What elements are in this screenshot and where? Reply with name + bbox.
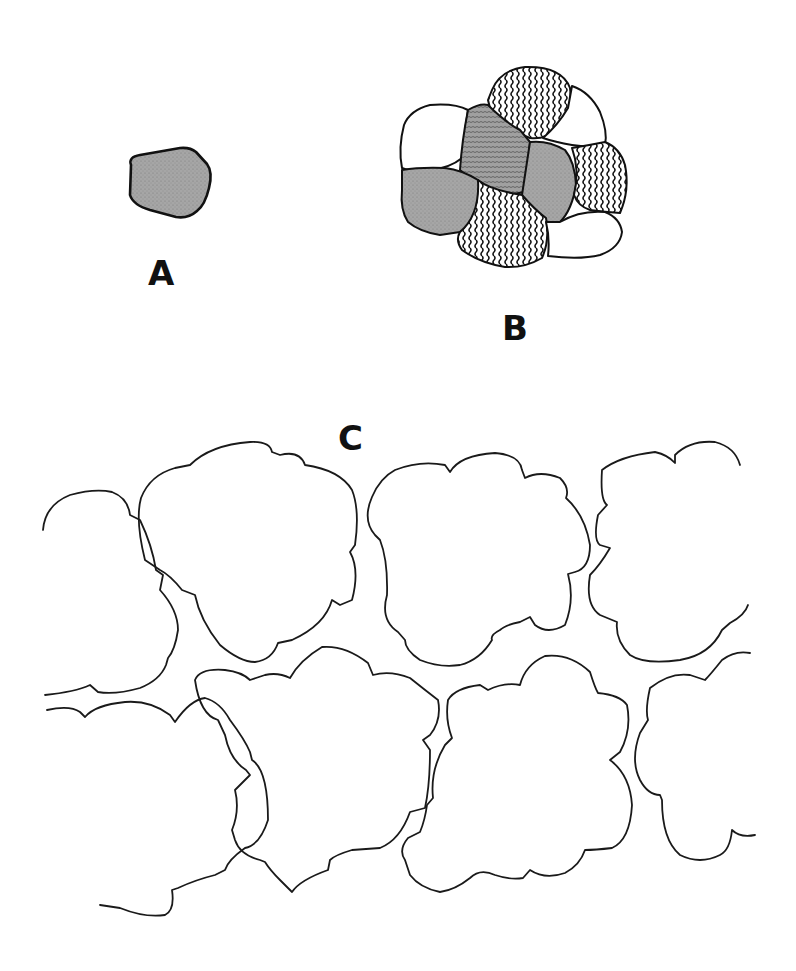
cell-c-bottom-4 xyxy=(635,652,755,860)
panel-c: C xyxy=(43,418,755,916)
cell-c-bottom-1 xyxy=(47,698,268,916)
cell-a-single xyxy=(130,148,211,218)
cell-b-white-left xyxy=(400,105,468,171)
panel-a: A xyxy=(130,148,211,293)
figure-canvas: A B C xyxy=(0,0,796,971)
cell-c-top-2 xyxy=(139,442,357,662)
panel-label-b: B xyxy=(502,308,528,348)
panel-label-c: C xyxy=(338,418,363,458)
cell-c-bottom-3 xyxy=(402,656,632,892)
cell-c-top-1 xyxy=(43,491,178,695)
panel-label-a: A xyxy=(148,253,175,293)
panel-b: B xyxy=(400,67,626,348)
cell-c-top-3 xyxy=(368,453,590,666)
cell-b-striped-right xyxy=(572,142,627,213)
cell-c-top-4 xyxy=(589,442,748,662)
